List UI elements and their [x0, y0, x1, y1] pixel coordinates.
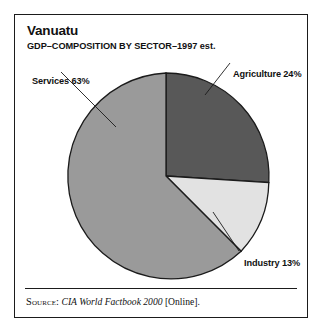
slice-label-industry: Industry 13%: [244, 258, 300, 268]
source-label: Source:: [26, 296, 59, 307]
slice-label-agriculture: Agriculture 24%: [233, 69, 301, 79]
pie-chart-plot-area: Services 63% Agriculture 24% Industry 13…: [15, 15, 309, 319]
slice-label-services: Services 63%: [32, 76, 90, 86]
pie-slice-agriculture[interactable]: [166, 73, 269, 183]
source-availability: [Online].: [165, 296, 200, 307]
pie-chart-svg: [15, 15, 309, 319]
source-divider: [25, 288, 297, 289]
chart-figure: Vanuatu GDP–COMPOSITION BY SECTOR–1997 e…: [14, 14, 308, 318]
source-note: Source: CIA World Factbook 2000 [Online]…: [26, 296, 298, 307]
source-work-title: CIA World Factbook 2000: [62, 296, 163, 307]
